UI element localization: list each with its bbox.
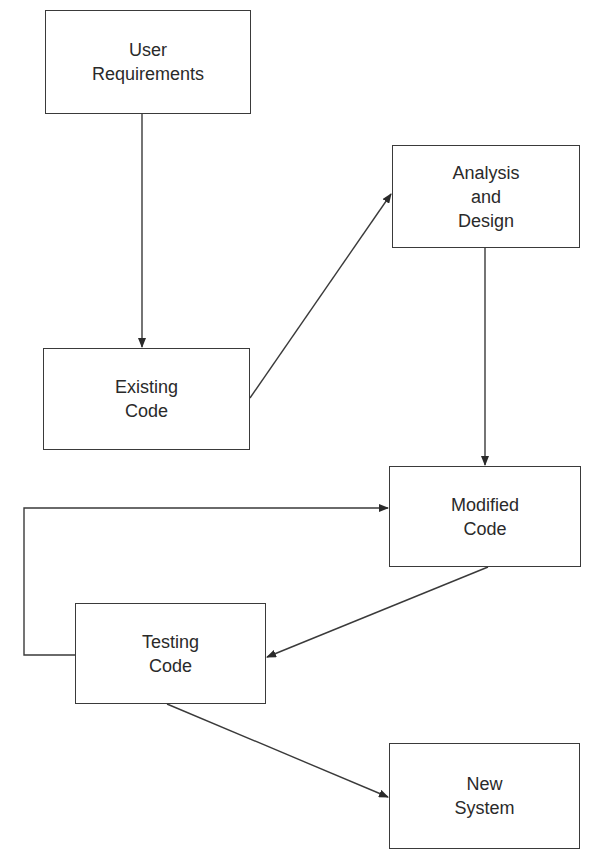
node-user-requirements: User Requirements — [45, 10, 251, 114]
node-testing-code: Testing Code — [75, 603, 266, 704]
flowchart-canvas: User Requirements Analysis and Design Ex… — [0, 0, 599, 864]
node-label-line: Analysis — [452, 161, 519, 185]
node-label-line: User — [129, 38, 167, 62]
node-label-line: Design — [458, 209, 514, 233]
node-label-line: Code — [463, 517, 506, 541]
node-new-system: New System — [389, 743, 580, 849]
node-label-line: Testing — [142, 630, 199, 654]
arrow-modified-code-to-testing-code — [267, 567, 488, 657]
node-label-line: Modified — [451, 493, 519, 517]
node-analysis-and-design: Analysis and Design — [392, 145, 580, 248]
node-label-line: and — [471, 185, 501, 209]
node-existing-code: Existing Code — [43, 348, 250, 450]
node-label-line: Code — [149, 654, 192, 678]
node-label-line: Requirements — [92, 62, 204, 86]
node-label-line: System — [454, 796, 514, 820]
node-modified-code: Modified Code — [389, 466, 581, 567]
arrow-existing-code-to-analysis-design — [250, 194, 391, 398]
node-label-line: Code — [125, 399, 168, 423]
arrow-testing-code-to-new-system — [167, 704, 388, 797]
node-label-line: New — [466, 772, 502, 796]
node-label-line: Existing — [115, 375, 178, 399]
